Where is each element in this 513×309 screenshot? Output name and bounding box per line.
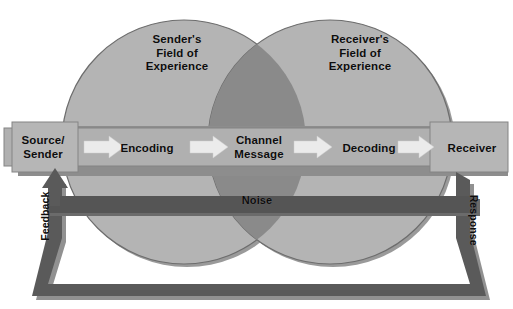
receiver-field-of-experience-label: Receiver's Field of Experience <box>295 33 425 74</box>
step-label-encoding: Encoding <box>108 142 186 156</box>
response-loop-label: Response <box>468 180 480 260</box>
communication-model-diagram: Sender's Field of Experience Receiver's … <box>0 0 513 309</box>
step-label-source-sender: Source/ Sender <box>14 134 72 161</box>
step-label-receiver: Receiver <box>436 142 508 156</box>
noise-label: Noise <box>224 194 290 207</box>
step-label-decoding: Decoding <box>330 142 408 156</box>
sender-field-of-experience-label: Sender's Field of Experience <box>112 33 242 74</box>
feedback-loop-label: Feedback <box>39 176 51 256</box>
step-label-channel-message: Channel Message <box>224 134 294 161</box>
